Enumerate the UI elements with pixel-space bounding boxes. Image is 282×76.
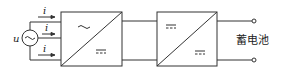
charger-block-diagram: i i i u 蓄电池	[0, 0, 282, 76]
current-label-1: i	[43, 5, 46, 16]
voltage-label: u	[13, 33, 19, 44]
terminal-top	[252, 19, 256, 23]
sine-icon	[25, 37, 35, 40]
battery-label: 蓄电池	[236, 34, 269, 47]
current-label-3: i	[43, 43, 46, 54]
ac-symbol-icon	[78, 26, 90, 29]
terminal-bottom	[252, 58, 256, 62]
current-label-2: i	[45, 22, 48, 33]
